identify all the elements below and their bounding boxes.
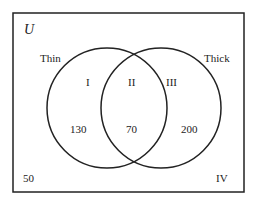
region-II-label: II [128, 76, 136, 88]
thick-set-circle [101, 48, 221, 168]
thin-set-label: Thin [40, 52, 61, 64]
region-III-label: III [166, 76, 177, 88]
venn-diagram: U Thin Thick I II III 130 70 200 50 IV [0, 0, 254, 203]
universe-label: U [24, 22, 35, 37]
region-II-value: 70 [126, 123, 138, 135]
region-III-value: 200 [181, 123, 198, 135]
thick-set-label: Thick [204, 52, 230, 64]
thin-set-circle [47, 48, 167, 168]
region-IV-label: IV [216, 172, 228, 184]
region-I-value: 130 [70, 123, 87, 135]
region-I-label: I [86, 76, 90, 88]
region-IV-value: 50 [23, 172, 35, 184]
